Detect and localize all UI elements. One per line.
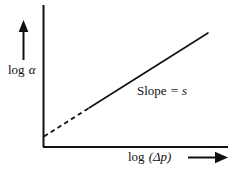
log-log-plot-figure: logα log(Δp) Slope=s: [0, 0, 234, 172]
plot-canvas: [0, 0, 234, 172]
data-line-dashed-segment: [44, 108, 89, 137]
slope-annotation: Slope=s: [137, 84, 187, 97]
x-axis-label-prefix: log: [128, 149, 145, 164]
y-axis-label-prefix: log: [8, 62, 25, 77]
y-axis-label: logα: [8, 63, 35, 76]
y-axis-label-symbol: α: [29, 62, 36, 77]
slope-annotation-symbol: s: [182, 83, 187, 98]
slope-annotation-text: Slope: [137, 83, 167, 98]
x-axis-label: log(Δp): [128, 150, 171, 163]
x-axis-direction-arrow-icon: [188, 152, 228, 163]
x-axis-label-symbol: (Δp): [149, 149, 172, 164]
slope-annotation-equals: =: [171, 83, 178, 98]
y-axis-direction-arrow-icon: [19, 20, 29, 60]
